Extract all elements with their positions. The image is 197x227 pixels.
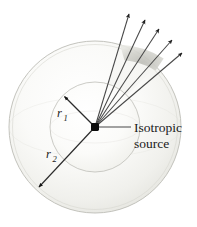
radius-label-r2-symbol: r [46, 147, 51, 161]
callout-label-line1: Isotropic [134, 120, 182, 135]
radius-label-r1-symbol: r [57, 106, 62, 120]
isotropic-source-figure: Isotropic source r 1 r 2 [0, 0, 197, 227]
isotropic-source-point [91, 123, 99, 131]
figure-canvas: Isotropic source r 1 r 2 [0, 0, 197, 227]
radius-label-r1-subscript: 1 [64, 113, 68, 123]
callout-label-line2: source [134, 136, 169, 151]
